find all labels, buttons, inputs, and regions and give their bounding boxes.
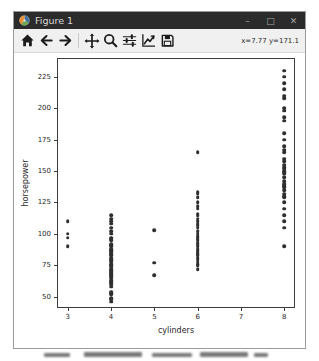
y-tick-label: 225 (38, 73, 51, 81)
back-button[interactable] (37, 31, 56, 51)
scatter-point (196, 217, 200, 221)
y-tick (54, 140, 57, 141)
window-title: Figure 1 (35, 15, 73, 26)
scatter-point (196, 150, 200, 154)
scatter-point (66, 232, 70, 236)
y-tick-label: 175 (38, 136, 51, 144)
home-button[interactable] (18, 31, 37, 51)
scatter-point (109, 226, 113, 230)
scatter-point (282, 226, 286, 230)
scatter-point (109, 290, 113, 294)
scatter-point (282, 138, 286, 142)
scatter-point (282, 106, 286, 110)
sliders-icon (122, 33, 137, 48)
y-tick-label: 50 (42, 293, 51, 301)
scatter-point (153, 274, 157, 278)
scatter-point (196, 196, 200, 200)
x-tick (284, 308, 285, 311)
scatter-point (196, 212, 200, 216)
line-chart-icon (141, 33, 156, 48)
edit-axis-button[interactable] (139, 31, 158, 51)
scatter-point (282, 179, 286, 183)
x-tick (241, 308, 242, 311)
navigation-toolbar: x=7.77 y=171.1 (14, 29, 305, 53)
scatter-point (109, 296, 113, 300)
scatter-point (282, 176, 286, 180)
scatter-point (109, 242, 113, 246)
scatter-point (196, 230, 200, 234)
scatter-point (196, 201, 200, 205)
pan-button[interactable] (82, 31, 101, 51)
window-controls: – □ ✕ (236, 12, 305, 29)
y-tick-label: 100 (38, 230, 51, 238)
scatter-point (282, 132, 286, 136)
scatter-point (282, 119, 286, 123)
scatter-point (66, 220, 70, 224)
pan-icon (84, 33, 100, 49)
x-tick-label: 3 (66, 313, 70, 321)
matplotlib-logo-icon (19, 15, 30, 26)
scatter-point (109, 230, 113, 234)
scatter-point (282, 69, 286, 73)
scatter-point (196, 204, 200, 208)
scatter-point (282, 144, 286, 148)
y-tick (54, 108, 57, 109)
x-tick-label: 6 (195, 313, 199, 321)
scatter-point (282, 207, 286, 211)
scatter-point (153, 228, 157, 232)
scatter-point (109, 213, 113, 217)
forward-arrow-icon (58, 33, 73, 48)
scatter-point (282, 115, 286, 119)
scatter-point (282, 192, 286, 196)
y-tick (54, 234, 57, 235)
scatter-point (282, 81, 286, 85)
figure-canvas[interactable]: 3456785075100125150175200225 horsepower … (14, 53, 305, 348)
y-tick-label: 75 (42, 261, 51, 269)
scatter-point (109, 217, 113, 221)
x-tick-label: 7 (239, 313, 243, 321)
y-tick (54, 297, 57, 298)
axes-box (57, 58, 295, 308)
scatter-point (66, 236, 70, 240)
x-axis-label: cylinders (158, 326, 194, 335)
save-button[interactable] (158, 31, 177, 51)
zoom-button[interactable] (101, 31, 120, 51)
x-tick (154, 308, 155, 311)
y-tick (54, 77, 57, 78)
toolbar-separator (78, 33, 79, 48)
scatter-point (282, 220, 286, 224)
scatter-point (282, 245, 286, 249)
figure-window: Figure 1 – □ ✕ (13, 11, 306, 349)
scatter-point (282, 94, 286, 98)
scatter-point (282, 88, 286, 92)
y-tick (54, 202, 57, 203)
scatter-point (282, 75, 286, 79)
scatter-point (153, 261, 157, 265)
titlebar[interactable]: Figure 1 – □ ✕ (14, 12, 305, 29)
y-axis-label: horsepower (21, 159, 30, 206)
home-icon (20, 33, 35, 48)
scatter-point (196, 267, 200, 271)
magnifier-icon (103, 33, 118, 48)
scatter-point (282, 157, 286, 161)
scatter-point (282, 163, 286, 167)
scatter-point (196, 191, 200, 195)
configure-subplots-button[interactable] (120, 31, 139, 51)
close-button[interactable]: ✕ (282, 12, 305, 29)
y-tick-label: 200 (38, 104, 51, 112)
y-tick-label: 150 (38, 167, 51, 175)
x-tick (111, 308, 112, 311)
forward-button[interactable] (56, 31, 75, 51)
back-arrow-icon (39, 33, 54, 48)
cursor-coordinates-readout: x=7.77 y=171.1 (241, 37, 301, 45)
y-tick (54, 265, 57, 266)
scatter-point (66, 245, 70, 249)
minimize-button[interactable]: – (236, 12, 259, 29)
y-tick (54, 171, 57, 172)
x-tick-label: 5 (152, 313, 156, 321)
y-tick-label: 125 (38, 198, 51, 206)
x-tick (198, 308, 199, 311)
scatter-point (282, 213, 286, 217)
x-tick-label: 8 (282, 313, 286, 321)
maximize-button[interactable]: □ (259, 12, 282, 29)
